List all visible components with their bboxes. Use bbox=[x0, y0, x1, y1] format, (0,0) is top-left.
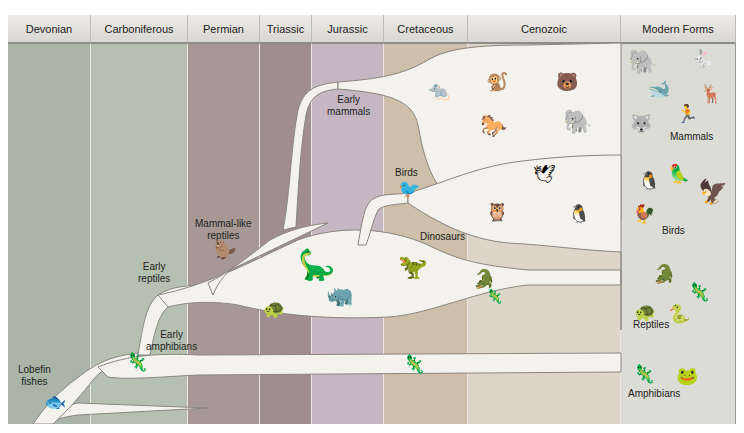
label-early-mammals-line1: Early bbox=[327, 94, 370, 106]
coyote-icon: 🐺 bbox=[630, 115, 652, 133]
label-modern-birds: Birds bbox=[662, 225, 685, 237]
rabbit-icon: 🐇 bbox=[691, 50, 713, 68]
monkey-icon: 🐒 bbox=[486, 73, 508, 91]
phylogenetic-tree bbox=[8, 15, 736, 424]
bear-icon: 🐻 bbox=[556, 73, 578, 91]
label-lobefin-line1: Lobefin bbox=[18, 364, 51, 376]
modern-salamander-icon: 🦎 bbox=[633, 365, 655, 383]
gull-icon: 🕊 bbox=[533, 165, 556, 183]
label-lobefin-fishes: Lobefin fishes bbox=[18, 364, 51, 388]
mammal-like-reptile-icon: 🦫 bbox=[214, 241, 236, 259]
label-early-reptiles: Early reptiles bbox=[138, 261, 170, 285]
fish-icon: 🐟 bbox=[44, 393, 66, 411]
label-early-reptiles-line2: reptiles bbox=[138, 273, 170, 285]
snake-icon: 🐍 bbox=[668, 305, 690, 323]
label-mammal-like-line1: Mammal-like bbox=[195, 218, 252, 230]
whale-icon: 🐋 bbox=[648, 80, 670, 98]
label-lobefin-line2: fishes bbox=[18, 376, 51, 388]
human-icon: 🏃 bbox=[676, 105, 698, 123]
modern-crocodile-icon: 🐊 bbox=[653, 265, 675, 283]
salamander-icon: 🦎 bbox=[403, 355, 425, 373]
label-early-amphibians: Early amphibians bbox=[146, 329, 197, 353]
label-modern-mammals: Mammals bbox=[670, 131, 713, 143]
label-early-amphibians-line1: Early bbox=[146, 329, 197, 341]
modern-lizard-icon: 🦎 bbox=[688, 283, 710, 301]
archaeopteryx-icon: 🐦 bbox=[398, 180, 420, 198]
lizard-icon: 🦎 bbox=[486, 289, 503, 303]
label-early-amphibians-line2: amphibians bbox=[146, 341, 197, 353]
elephant-icon: 🐘 bbox=[628, 50, 658, 74]
crocodile-icon: 🐊 bbox=[473, 270, 495, 288]
triceratops-icon: 🦏 bbox=[326, 285, 353, 307]
mammoth-icon: 🐘 bbox=[563, 110, 593, 134]
branch-early-amphibians bbox=[98, 353, 621, 378]
penguin-icon: 🐧 bbox=[638, 172, 660, 190]
turtle-icon: 🐢 bbox=[263, 300, 285, 318]
amphibian-icon: 🦎 bbox=[126, 353, 148, 371]
modern-turtle-icon: 🐢 bbox=[634, 303, 656, 321]
eagle-icon: 🦅 bbox=[698, 180, 728, 204]
label-early-reptiles-line1: Early bbox=[138, 261, 170, 273]
hoofed-mammal-icon: 🐎 bbox=[480, 115, 507, 137]
rodent-icon: 🐀 bbox=[428, 82, 450, 100]
label-early-mammals-line2: mammals bbox=[327, 106, 370, 118]
pheasant-icon: 🐓 bbox=[633, 205, 655, 223]
frog-icon: 🐸 bbox=[676, 367, 698, 385]
label-modern-amphibians: Amphibians bbox=[628, 388, 680, 400]
deer-icon: 🦌 bbox=[700, 85, 722, 103]
owl-icon: 🦉 bbox=[486, 203, 508, 221]
label-early-mammals: Early mammals bbox=[327, 94, 370, 118]
puffin-icon: 🐧 bbox=[568, 205, 590, 223]
label-dinosaurs: Dinosaurs bbox=[420, 231, 465, 243]
dinosaur-theropod-icon: 🦖 bbox=[398, 255, 428, 279]
parrot-icon: 🦜 bbox=[668, 165, 690, 183]
label-birds-lineage: Birds bbox=[395, 167, 418, 179]
label-mammal-like-reptiles: Mammal-like reptiles bbox=[195, 218, 252, 242]
vertebrate-evolution-diagram: Devonian Carboniferous Permian Triassic … bbox=[8, 15, 736, 424]
dinosaur-sauropod-icon: 🦕 bbox=[298, 250, 335, 280]
